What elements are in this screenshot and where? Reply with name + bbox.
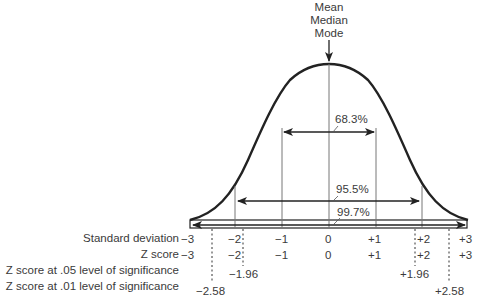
pct-68: 68.3% [335,113,368,125]
z-tick: +3 [459,249,472,262]
sd-tick: −1 [275,233,288,246]
pct-95: 95.5% [336,183,369,195]
row-label-z01: Z score at .01 level of significance [6,280,179,292]
sd-tick: −3 [181,233,194,246]
sd-lines [235,64,422,228]
z-tick: −3 [181,249,194,262]
z01-neg: −2.58 [196,285,225,298]
z-tick: +2 [417,249,430,262]
z05-neg: −1.96 [229,268,258,281]
mode-label: Mode [304,27,354,40]
pct-99: 99.7% [337,206,370,218]
z01-pos: +2.58 [435,285,464,298]
row-label-z: Z score [141,248,179,260]
sd-tick: −2 [228,233,241,246]
normal-distribution-diagram: Mean Median Mode 68.3% 95.5% 99.7% Stand… [0,0,477,302]
z-tick: −1 [275,249,288,262]
row-label-z05: Z score at .05 level of significance [6,264,179,276]
mean-label: Mean [304,1,354,14]
z05-pos: +1.96 [400,268,429,281]
sd-tick: 0 [325,233,331,246]
sd-tick: +3 [459,233,472,246]
sd-tick: +2 [417,233,430,246]
row-label-sd: Standard deviation [83,232,179,244]
z-tick: −2 [228,249,241,262]
median-label: Median [304,14,354,27]
z-tick: 0 [325,249,331,262]
z-tick: +1 [368,249,381,262]
sd-tick: +1 [368,233,381,246]
